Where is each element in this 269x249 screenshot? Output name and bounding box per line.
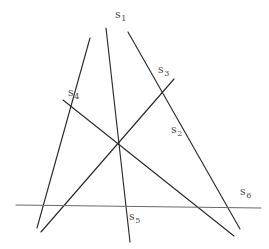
line-s2 — [128, 32, 240, 229]
label-s1-base: s — [115, 8, 121, 21]
label-s5: s5 — [129, 211, 140, 225]
label-s1-subscript: 1 — [121, 14, 126, 23]
line-s5 — [37, 38, 90, 228]
line-s4 — [63, 100, 234, 236]
label-s6: s6 — [240, 186, 251, 200]
line-s6 — [16, 205, 261, 208]
label-s4: s4 — [68, 87, 79, 101]
lines-group — [16, 28, 261, 242]
label-s2: s2 — [171, 124, 182, 138]
label-s3: s3 — [158, 64, 169, 78]
label-s2-subscript: 2 — [177, 129, 182, 138]
label-s2-base: s — [171, 123, 177, 136]
label-s5-subscript: 5 — [135, 216, 140, 225]
line-s1 — [106, 28, 130, 242]
line-s3 — [41, 79, 174, 232]
label-s5-base: s — [129, 210, 135, 223]
label-s4-base: s — [68, 86, 74, 99]
line-diagram: s1s2s3s4s5s6 — [0, 0, 269, 249]
label-s3-subscript: 3 — [164, 69, 169, 78]
label-s3-base: s — [158, 63, 164, 76]
label-s6-base: s — [240, 185, 246, 198]
label-s6-subscript: 6 — [246, 191, 251, 200]
label-s1: s1 — [115, 9, 126, 23]
label-s4-subscript: 4 — [74, 92, 79, 101]
